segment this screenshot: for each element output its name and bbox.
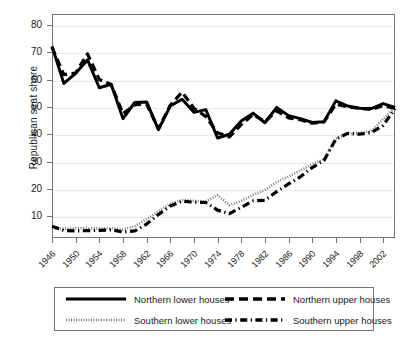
x-tick-mark: [360, 238, 361, 243]
x-tick-mark: [170, 238, 171, 243]
x-tick-mark: [123, 238, 124, 243]
legend-item-southern-lower-houses: Southern lower houses: [55, 309, 214, 331]
x-tick-mark: [218, 238, 219, 243]
legend-swatch-dotted-icon: [65, 314, 127, 326]
legend-item-northern-upper-houses: Northern upper houses: [214, 288, 373, 310]
x-tick-mark: [241, 238, 242, 243]
x-tick-mark: [147, 238, 148, 243]
chart-figure: Republican seat share 1020304050607080 1…: [0, 0, 417, 341]
series-line: [52, 46, 395, 138]
x-tick-mark: [194, 238, 195, 243]
series-line: [52, 109, 395, 232]
series-line: [52, 107, 395, 229]
x-tick-mark: [76, 238, 77, 243]
x-tick-mark: [289, 238, 290, 243]
legend-swatch-dash-dot-icon: [224, 314, 286, 326]
x-tick-mark: [99, 238, 100, 243]
x-tick-mark: [383, 238, 384, 243]
x-tick-mark: [52, 238, 53, 243]
legend-row: Northern lower houses Northern upper hou…: [55, 288, 373, 310]
legend-item-northern-lower-houses: Northern lower houses: [55, 288, 214, 310]
x-tick-mark: [336, 238, 337, 243]
x-tick-mark: [265, 238, 266, 243]
legend-swatch-dashed-icon: [224, 293, 286, 305]
x-tick-mark: [312, 238, 313, 243]
series-line: [52, 47, 395, 137]
legend-item-southern-upper-houses: Southern upper houses: [214, 309, 373, 331]
legend-label: Northern upper houses: [293, 294, 390, 305]
legend-swatch-solid-icon: [65, 293, 127, 305]
legend-label: Southern upper houses: [293, 315, 392, 326]
legend-row: Southern lower houses Southern upper hou…: [55, 309, 373, 331]
legend: Northern lower houses Northern upper hou…: [54, 287, 374, 331]
